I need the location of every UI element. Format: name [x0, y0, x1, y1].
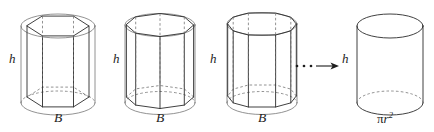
prism-to-cylinder-diagram: h h h h B B B πr2 [0, 0, 434, 132]
height-label-1: h [9, 52, 16, 65]
diagram-canvas [0, 0, 434, 132]
prism-bottom-face-1 [27, 87, 89, 107]
circle-area-label: πr2 [377, 112, 393, 125]
figure-octagonal-prism [125, 14, 195, 115]
ellipsis-arrow-group [296, 63, 339, 70]
ellipsis-dot [303, 65, 306, 68]
height-label-3: h [210, 52, 217, 65]
figure-decagonal-prism [227, 13, 297, 115]
prism-bottom-face-3 [228, 85, 297, 107]
base-area-label-1: B [54, 111, 62, 125]
height-label-2: h [113, 52, 120, 65]
base-area-label-2: B [156, 111, 164, 125]
figure-limit-cylinder [357, 14, 423, 115]
prism-top-face-3 [228, 13, 297, 35]
prism-top-face-1 [27, 16, 89, 36]
base-area-label-3: B [258, 111, 266, 125]
cylinder-top-ellipse [357, 14, 423, 38]
cylinder-bottom-back [357, 91, 423, 103]
ellipsis-dot [296, 65, 299, 68]
ellipsis-dot [310, 65, 313, 68]
radius-exponent: 2 [389, 110, 393, 120]
figure-hexagonal-prism [21, 14, 95, 115]
cylinder-shell-3 [227, 13, 297, 115]
height-label-4: h [342, 52, 349, 65]
prism-lateral-edges-3 [228, 13, 297, 107]
pi-symbol: π [377, 111, 384, 126]
